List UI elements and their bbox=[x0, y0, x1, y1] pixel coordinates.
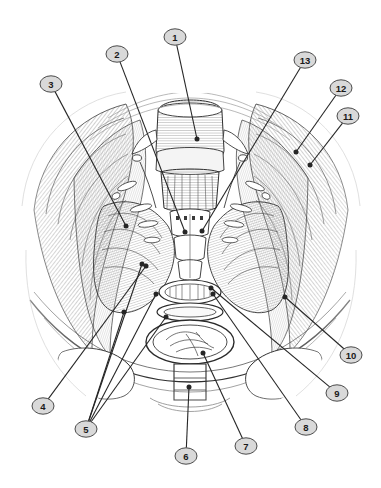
leader-endpoint-10 bbox=[283, 295, 288, 300]
marker-4[interactable]: 4 bbox=[32, 398, 54, 414]
leader-endpoint-12 bbox=[294, 150, 299, 155]
leader-endpoint-2 bbox=[183, 230, 188, 235]
marker-3[interactable]: 3 bbox=[40, 76, 62, 92]
marker-1[interactable]: 1 bbox=[164, 29, 186, 45]
marker-5[interactable]: 5 bbox=[75, 421, 97, 437]
marker-ellipse-1[interactable] bbox=[164, 29, 186, 45]
marker-10[interactable]: 10 bbox=[340, 347, 362, 363]
marker-ellipse-8[interactable] bbox=[295, 419, 317, 435]
leader-endpoint-11 bbox=[308, 163, 313, 168]
marker-ellipse-13[interactable] bbox=[294, 52, 316, 68]
leader-endpoint-5 bbox=[140, 262, 145, 267]
marker-ellipse-2[interactable] bbox=[106, 46, 128, 62]
leader-endpoint-3 bbox=[124, 224, 129, 229]
marker-13[interactable]: 13 bbox=[294, 52, 316, 68]
leader-endpoint-8 bbox=[211, 292, 216, 297]
leader-endpoint-5 bbox=[164, 315, 169, 320]
marker-12[interactable]: 12 bbox=[330, 80, 352, 96]
marker-2[interactable]: 2 bbox=[106, 46, 128, 62]
illustration-body bbox=[0, 0, 381, 488]
marker-6[interactable]: 6 bbox=[175, 448, 197, 464]
marker-ellipse-3[interactable] bbox=[40, 76, 62, 92]
marker-ellipse-11[interactable] bbox=[337, 108, 359, 124]
leader-endpoint-1 bbox=[195, 137, 200, 142]
marker-7[interactable]: 7 bbox=[235, 438, 257, 454]
marker-8[interactable]: 8 bbox=[295, 419, 317, 435]
marker-ellipse-6[interactable] bbox=[175, 448, 197, 464]
marker-ellipse-4[interactable] bbox=[32, 398, 54, 414]
marker-ellipse-7[interactable] bbox=[235, 438, 257, 454]
marker-ellipse-12[interactable] bbox=[330, 80, 352, 96]
leader-endpoint-7 bbox=[201, 351, 206, 356]
marker-11[interactable]: 11 bbox=[337, 108, 359, 124]
leader-endpoint-6 bbox=[187, 385, 192, 390]
leader-endpoint-13 bbox=[200, 229, 205, 234]
marker-ellipse-10[interactable] bbox=[340, 347, 362, 363]
anatomy-figure: 12345678910111213 bbox=[0, 0, 381, 488]
marker-9[interactable]: 9 bbox=[326, 385, 348, 401]
leader-endpoint-5 bbox=[154, 292, 159, 297]
marker-ellipse-9[interactable] bbox=[326, 385, 348, 401]
anatomy-illustration: 12345678910111213 bbox=[0, 0, 381, 488]
marker-ellipse-5[interactable] bbox=[75, 421, 97, 437]
leader-endpoint-9 bbox=[209, 286, 214, 291]
